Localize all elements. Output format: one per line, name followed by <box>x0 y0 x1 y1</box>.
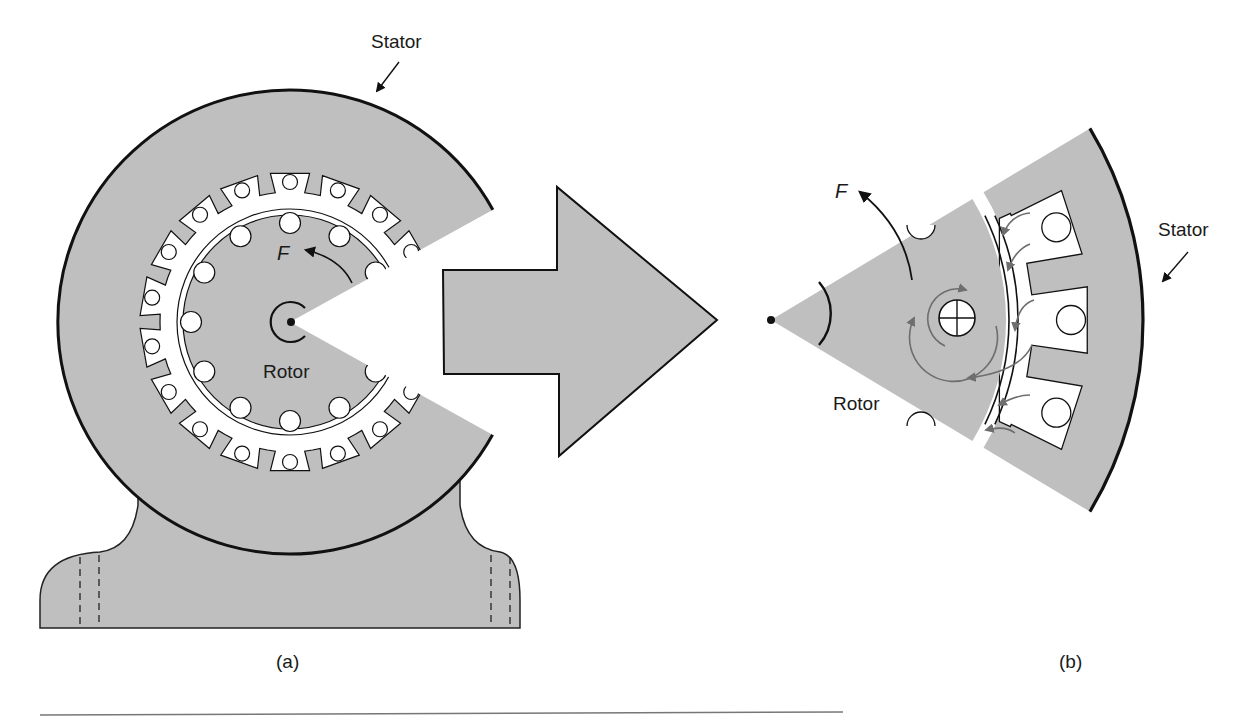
stator-conductor <box>161 245 176 260</box>
rotor-bar <box>194 262 215 283</box>
stator-conductor <box>283 175 298 190</box>
rotor-bar <box>280 213 301 234</box>
stator-conductor-b <box>1057 306 1086 335</box>
stator-conductor-b <box>1042 213 1071 242</box>
rotor-bar <box>181 312 202 333</box>
rotor-bar <box>230 226 251 247</box>
stator-conductor <box>330 446 345 461</box>
bottom-rule <box>40 712 843 715</box>
stator-conductor <box>145 290 160 305</box>
stator-conductor <box>193 422 208 437</box>
stator-conductor <box>145 339 160 354</box>
stator-label-a: Stator <box>371 31 422 52</box>
force-label-b: F <box>835 180 849 202</box>
panel-b: F Rotor Stator (b) <box>767 128 1209 672</box>
stator-conductor <box>372 422 387 437</box>
stator-conductor <box>235 183 250 198</box>
rotor-bar <box>329 226 350 247</box>
stator-conductor <box>161 385 176 400</box>
pivot-dot <box>767 316 775 324</box>
rotor-bar <box>329 397 350 418</box>
stator-conductor-b <box>1042 398 1071 427</box>
stator-pointer <box>377 62 399 91</box>
stator-conductor <box>235 446 250 461</box>
stator-conductor <box>330 183 345 198</box>
rotor-bar <box>194 361 215 382</box>
stator-conductor <box>283 455 298 470</box>
stator-conductor <box>193 207 208 222</box>
stator-pointer-b <box>1163 252 1188 281</box>
rotor-bar <box>280 411 301 432</box>
force-label-a: F <box>277 242 291 264</box>
stator-label-b: Stator <box>1158 219 1209 240</box>
motor-diagram: F Rotor Stator (a) F Rotor Stator (b) <box>0 0 1244 725</box>
rotor-label-a: Rotor <box>263 361 310 382</box>
stator-conductor <box>372 207 387 222</box>
caption-a: (a) <box>276 651 299 672</box>
rotor-bar <box>230 397 251 418</box>
caption-b: (b) <box>1059 651 1082 672</box>
shaft-center-dot <box>287 318 295 326</box>
rotor-label-b: Rotor <box>833 393 880 414</box>
